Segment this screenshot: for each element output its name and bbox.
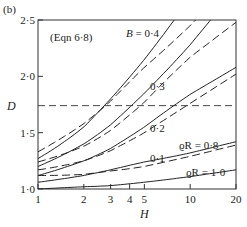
y-tick-label: 1·5 xyxy=(20,127,35,139)
y-axis: 1·01·52·02·5 xyxy=(20,14,43,195)
curve-solid xyxy=(38,67,236,175)
curve-dashed xyxy=(38,74,236,170)
curve-dashed xyxy=(38,0,236,152)
panel-label: (b) xyxy=(3,3,16,16)
curve-label-b01: 0·1 xyxy=(150,152,165,164)
curve-label-b02: 0·2 xyxy=(150,122,165,134)
x-axis-label: H xyxy=(139,207,150,221)
y-tick-label: 1·0 xyxy=(20,183,35,195)
legend-dashed: ϱR = 0·8 xyxy=(179,139,219,151)
legend-solid: ϱR = 1·0 xyxy=(186,166,226,178)
x-tick-label: 2 xyxy=(81,193,87,205)
equation-annotation: (Eqn 6·8) xyxy=(50,31,93,44)
chart: (b) 1·01·52·02·5 123451020 (Eqn 6·8) D H… xyxy=(0,0,247,227)
b04-value: = 0·4 xyxy=(133,27,160,39)
x-tick-label: 10 xyxy=(185,193,197,205)
x-tick-label: 1 xyxy=(35,193,41,205)
x-tick-label: 4 xyxy=(127,193,133,205)
y-axis-label: D xyxy=(6,99,16,113)
x-tick-label: 5 xyxy=(142,193,148,205)
y-tick-label: 2·5 xyxy=(20,14,35,26)
x-tick-label: 20 xyxy=(231,193,243,205)
x-tick-label: 3 xyxy=(108,193,114,205)
curve-solid xyxy=(38,0,236,159)
curve-label-b03: 0·3 xyxy=(150,80,165,92)
y-tick-label: 2·0 xyxy=(20,70,35,82)
curve-label-b04: B = 0·4 xyxy=(126,27,160,39)
